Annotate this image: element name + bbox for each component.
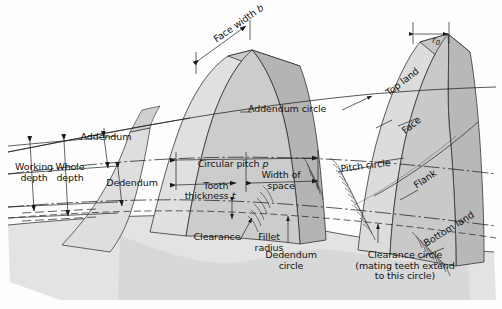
clearance-label: Clearance: [186, 232, 248, 243]
dedendum-label: Dedendum: [96, 178, 168, 189]
gear-tooth-nomenclature-figure: Face width b r0 Addendum Working depth W…: [0, 0, 502, 309]
dedendum-circle-label: Dedendum circle: [258, 250, 324, 271]
whole-depth-label: Whole depth: [44, 162, 96, 183]
clearance-circle-label: Clearance circle (mating teeth extend to…: [330, 250, 480, 282]
width-of-space-label: Width of space: [250, 170, 312, 191]
gear-tooth-3: [358, 34, 484, 266]
tooth-thickness-label: Tooth thickness t: [178, 170, 242, 212]
addendum-label: Addendum: [74, 132, 138, 143]
addendum-circle-label: Addendum circle: [248, 104, 326, 115]
leader-addendum-circle: [342, 96, 372, 110]
top-radius-label: r0: [413, 24, 449, 59]
gear-tooth-2: [150, 50, 326, 244]
